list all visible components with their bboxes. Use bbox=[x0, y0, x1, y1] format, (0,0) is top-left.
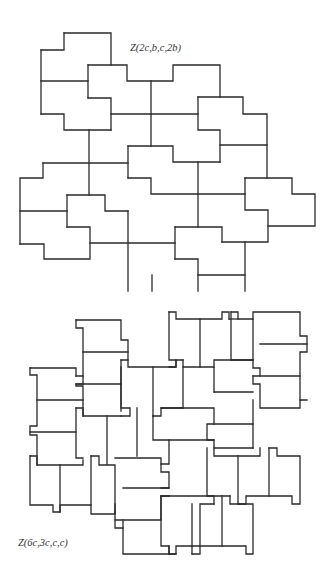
figure-label-top: Z(2c,b,c,2b) bbox=[130, 42, 181, 53]
figure-label-bottom: Z(6c,3c,c,c) bbox=[18, 537, 68, 548]
tile-edges-top bbox=[20, 33, 315, 291]
tile-edges-bottom bbox=[30, 312, 307, 554]
